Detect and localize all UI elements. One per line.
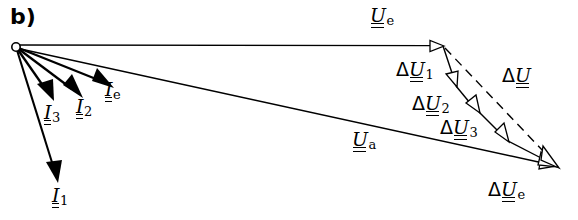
label-I2-subscript: 2 <box>84 104 92 119</box>
label-delta-U3-subscript: 3 <box>470 125 478 140</box>
label-Ie: Ie <box>105 80 121 101</box>
label-Ua-subscript: a <box>369 137 377 152</box>
label-Ie-symbol: I <box>105 80 113 99</box>
label-delta-U1-symbol: U <box>409 60 425 79</box>
label-delta-U-delta: Δ <box>502 64 515 86</box>
label-I3-subscript: 3 <box>52 110 60 125</box>
label-Ie-subscript: e <box>113 87 121 102</box>
current-phasor-group <box>16 47 114 183</box>
vector-delta-U1 <box>443 46 458 87</box>
label-Ua-symbol: U <box>352 130 368 149</box>
label-delta-Ue-subscript: e <box>518 187 526 202</box>
label-Ua: Ua <box>352 130 376 151</box>
vector-delta-U2 <box>456 86 480 113</box>
label-delta-U1: ΔU1 <box>396 60 434 81</box>
label-I1: I1 <box>52 186 68 207</box>
label-Ue-subscript: e <box>387 13 395 28</box>
label-delta-U2-symbol: U <box>425 94 441 113</box>
label-delta-U1-subscript: 1 <box>426 67 434 82</box>
label-delta-U-symbol: U <box>515 66 531 85</box>
label-I3: I3 <box>44 103 60 124</box>
label-delta-U3-symbol: U <box>453 118 469 137</box>
label-delta-Ue-delta: Δ <box>488 178 501 200</box>
label-delta-U: ΔU <box>502 66 531 85</box>
label-I3-symbol: I <box>44 103 52 122</box>
label-Ue: Ue <box>370 6 394 27</box>
vector-Ue <box>16 41 444 52</box>
label-I2-symbol: I <box>76 97 84 116</box>
label-I1-symbol: I <box>52 186 60 205</box>
panel-label: b) <box>10 6 36 28</box>
figure-canvas: b) I1 I3 I2 Ie Ue Ua ΔU1 ΔU2 ΔU3 ΔU ΔUe <box>0 0 578 220</box>
label-delta-U2-delta: Δ <box>412 92 425 114</box>
label-delta-U3-delta: Δ <box>440 116 453 138</box>
label-delta-Ue: ΔUe <box>488 180 525 201</box>
vector-delta-U3 <box>479 112 509 142</box>
label-I2: I2 <box>76 97 92 118</box>
label-Ue-symbol: U <box>370 6 386 25</box>
label-delta-U2: ΔU2 <box>412 94 450 115</box>
label-delta-U1-delta: Δ <box>396 58 409 80</box>
label-I1-subscript: 1 <box>60 193 68 208</box>
label-delta-U3: ΔU3 <box>440 118 478 139</box>
label-delta-U2-subscript: 2 <box>442 101 450 116</box>
label-delta-Ue-symbol: U <box>501 180 517 199</box>
